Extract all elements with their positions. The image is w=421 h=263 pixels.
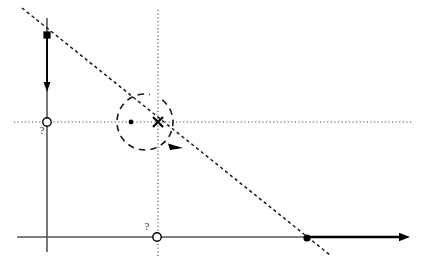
downward-vector-arrowhead [44, 82, 51, 92]
filled-point-right [303, 234, 310, 241]
open-point-left-label: ? [40, 124, 45, 136]
figure-canvas: ?? [0, 0, 421, 263]
open-point-bottom [153, 233, 161, 241]
dashed-diagonal-line [22, 8, 330, 255]
horizontal-axis-arrowhead [399, 233, 410, 241]
marker-group [43, 31, 311, 241]
label-group: ?? [40, 124, 150, 232]
rotation-arc-arrowhead [168, 144, 183, 151]
open-point-bottom-label: ? [145, 220, 150, 232]
geometry-diagram-figure: ?? [0, 0, 421, 263]
filled-point-top [43, 31, 50, 38]
filled-point-arc-left [129, 120, 134, 125]
